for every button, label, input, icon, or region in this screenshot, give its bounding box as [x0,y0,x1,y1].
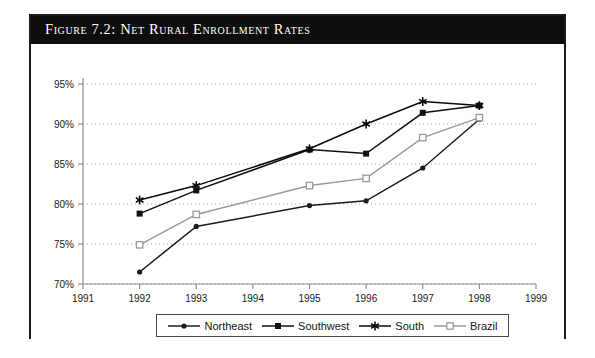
marker-southwest [137,211,143,217]
y-axis-tick-label: 80% [54,199,74,210]
x-axis-tick-label: 1995 [298,293,321,304]
marker-brazil [363,175,369,181]
line-chart-svg: 70%75%80%85%90%95% 199119921993199419951… [31,44,564,339]
legend-label: Southwest [298,320,349,332]
legend-entry-northeast[interactable]: Northeast [167,319,252,333]
marker-southwest [420,110,426,116]
legend-label: South [395,320,424,332]
chart-plot-area: 70%75%80%85%90%95% 199119921993199419951… [31,44,564,339]
y-axis-tick-label: 95% [54,79,74,90]
marker-southwest [363,151,369,157]
x-axis-tick-label: 1997 [412,293,435,304]
x-axis-tick-label: 1991 [72,293,95,304]
y-axis-tick-labels: 70%75%80%85%90%95% [54,79,74,290]
marker-northeast [194,224,199,229]
x-axis-tick-label: 1994 [242,293,265,304]
open-square-marker [433,319,467,333]
x-axis-tick-label: 1993 [185,293,208,304]
marker-northeast [420,165,425,170]
marker-northeast [307,203,312,208]
series-line-northeast [140,119,480,272]
y-axis-tick-label: 85% [54,159,74,170]
marker-brazil [476,114,482,120]
legend-entry-southwest[interactable]: Southwest [261,319,349,333]
x-axis-tick-label: 1996 [355,293,378,304]
legend-entry-brazil[interactable]: Brazil [433,319,498,333]
figure-title: Figure 7.2: Net Rural Enrollment Rates [45,21,310,38]
legend-label: Northeast [204,320,252,332]
figure-title-bar: Figure 7.2: Net Rural Enrollment Rates [31,16,564,44]
filled-square-marker [261,319,295,333]
marker-brazil [136,242,142,248]
asterisk-star-marker [358,319,392,333]
marker-brazil [193,211,199,217]
marker-northeast [364,198,369,203]
chart-legend: NortheastSouthwestSouthBrazil [156,314,509,337]
marker-brazil [306,182,312,188]
x-axis-tick-label: 1992 [129,293,152,304]
figure-container: Figure 7.2: Net Rural Enrollment Rates 7… [29,14,566,339]
y-axis-tick-label: 75% [54,239,74,250]
y-axis-tick-label: 70% [54,279,74,290]
x-axis-tick-labels: 199119921993199419951996199719981999 [72,293,548,304]
marker-northeast [137,269,142,274]
series-line-brazil [140,118,480,245]
filled-circle-marker [167,319,201,333]
marker-brazil [420,134,426,140]
x-axis-tick-label: 1999 [525,293,548,304]
x-axis-tick-label: 1998 [468,293,491,304]
legend-label: Brazil [470,320,498,332]
series-line-southwest [140,106,480,214]
legend-entry-south[interactable]: South [358,319,424,333]
y-axis-tick-label: 90% [54,119,74,130]
